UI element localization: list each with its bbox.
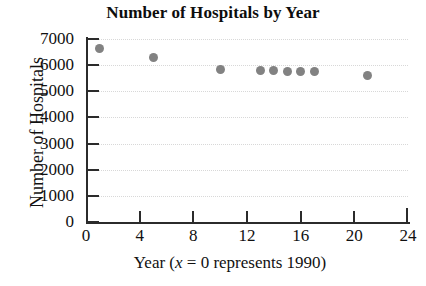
y-axis-tick (88, 169, 99, 171)
y-axis-tick-label: 4000 (22, 108, 74, 125)
data-point (216, 65, 225, 74)
gridline-y (86, 39, 408, 40)
y-axis-tick-label: 3000 (22, 135, 74, 152)
y-axis-tick-label: 5000 (22, 82, 74, 99)
data-point (269, 66, 278, 75)
x-axis-tick (139, 211, 141, 222)
y-axis-tick-label: 7000 (22, 30, 74, 47)
x-axis-spine (86, 222, 410, 224)
data-point (296, 67, 305, 76)
data-point (310, 67, 319, 76)
chart-title: Number of Hospitals by Year (0, 3, 426, 23)
gridline-y (86, 117, 408, 118)
data-point (149, 53, 158, 62)
x-axis-tick-label: 4 (120, 227, 160, 244)
gridline-y (86, 144, 408, 145)
gridline-y (86, 91, 408, 92)
data-point (95, 44, 104, 53)
x-axis-tick-label: 8 (173, 227, 213, 244)
data-point (256, 66, 265, 75)
x-axis-tick (246, 211, 248, 222)
x-axis-tick-label: 20 (334, 227, 374, 244)
x-axis-label-after: = 0 represents 1990) (183, 253, 327, 272)
y-axis-tick (88, 195, 99, 197)
y-axis-tick (88, 38, 99, 40)
gridline-y (86, 65, 408, 66)
x-axis-right-end-tick (406, 208, 408, 224)
y-axis-tick (88, 90, 99, 92)
y-axis-tick (88, 116, 99, 118)
y-axis-tick (88, 64, 99, 66)
x-axis-label-before: Year ( (134, 253, 175, 272)
x-axis-label: Year (x = 0 represents 1990) (40, 253, 420, 273)
x-axis-tick-label: 16 (281, 227, 321, 244)
plot-area (86, 39, 408, 222)
x-axis-tick (353, 211, 355, 222)
x-axis-tick (300, 211, 302, 222)
x-axis-tick-label: 24 (388, 227, 426, 244)
gridline-y (86, 170, 408, 171)
gridline-y (86, 196, 408, 197)
x-axis-tick-label: 0 (66, 227, 106, 244)
x-axis-tick-label: 12 (227, 227, 267, 244)
y-axis-tick-label: 1000 (22, 187, 74, 204)
y-axis-tick-label: 2000 (22, 161, 74, 178)
x-axis-label-variable: x (175, 253, 183, 272)
chart-figure: Number of Hospitals by Year Number of Ho… (0, 0, 426, 286)
data-point (283, 67, 292, 76)
x-axis-tick (192, 211, 194, 222)
y-axis-tick (88, 143, 99, 145)
y-axis-tick (88, 221, 99, 223)
y-axis-tick-label: 6000 (22, 56, 74, 73)
data-point (363, 71, 372, 80)
